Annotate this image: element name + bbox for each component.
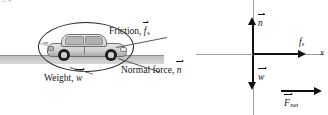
car-rear-wheel	[58, 49, 70, 61]
callout-normal-force: Normal force, n	[121, 66, 182, 76]
vector-label-weight: w	[258, 73, 265, 83]
cropped-text-fragment: 2.4	[2, 0, 12, 4]
car-front-window	[65, 36, 84, 45]
callout-friction: Friction, fs	[109, 27, 150, 37]
vector-label-normal-force-symbol: n	[258, 18, 263, 28]
vector-label-net-force-symbol: F	[284, 98, 290, 108]
normal-force-vector-shaft	[252, 24, 255, 54]
weight-vector-shaft	[252, 55, 255, 85]
car-headlight	[120, 47, 127, 52]
vector-label-friction-subscript: s	[302, 40, 305, 47]
callout-weight: Weight, w	[44, 74, 83, 84]
callout-friction-symbol: f	[144, 26, 147, 36]
weight-vector-head	[248, 82, 256, 90]
vector-label-net-force-subscript: net	[290, 101, 298, 108]
vector-label-weight-symbol: w	[258, 72, 265, 82]
friction-vector-shaft	[253, 53, 301, 56]
callout-weight-text: Weight,	[44, 73, 76, 83]
callout-normal-force-text: Normal force,	[121, 65, 177, 75]
vector-label-net-force: Fnet	[284, 99, 298, 109]
callout-friction-text: Friction,	[109, 26, 144, 36]
callout-normal-force-symbol: n	[177, 65, 182, 75]
vector-label-friction: fs	[299, 38, 304, 48]
car-front-wheel	[105, 49, 117, 61]
exhaust-puff-icon: ≈≋	[40, 41, 50, 47]
car-rear-window	[85, 36, 103, 45]
x-axis-label: x	[320, 47, 324, 57]
car-door-seam	[84, 45, 85, 54]
callout-friction-subscript: s	[147, 29, 150, 36]
callout-weight-symbol: w	[76, 73, 83, 83]
normal-force-vector-head	[248, 17, 256, 25]
net-force-vector-head	[314, 87, 322, 95]
net-force-vector-shaft	[281, 90, 317, 93]
vector-label-normal-force: n	[258, 19, 263, 29]
friction-vector-head	[298, 50, 306, 58]
physics-force-figure: 2.4 ≈≋ Friction, fs Normal force, n Weig…	[0, 0, 328, 115]
